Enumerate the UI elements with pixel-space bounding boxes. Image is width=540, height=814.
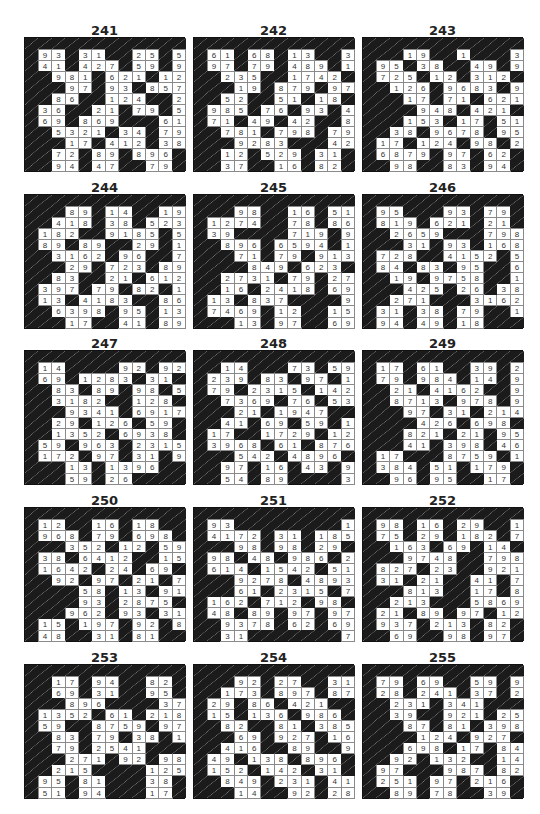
clue-cell (194, 38, 207, 49)
clue-cell (65, 49, 78, 60)
clue-cell (25, 38, 38, 49)
clue-cell (25, 418, 38, 429)
clue-cell (207, 687, 220, 698)
clue-cell (261, 630, 274, 641)
clue-cell (497, 519, 510, 530)
clue-cell (25, 720, 38, 731)
clue-cell (261, 228, 274, 239)
clue-cell (274, 630, 287, 641)
clue-cell (417, 765, 430, 776)
clue-cell (301, 440, 314, 451)
clue-cell (403, 306, 416, 317)
clue-cell (470, 195, 483, 206)
clue-cell (132, 508, 145, 519)
clue-cell (341, 351, 354, 362)
clue-cell (363, 306, 376, 317)
answer-cell: 8 (105, 294, 119, 306)
puzzle-number: 247 (24, 336, 185, 351)
clue-cell (497, 373, 510, 384)
clue-cell (510, 71, 523, 82)
answer-cell: 8 (301, 753, 315, 765)
clue-cell (25, 451, 38, 462)
answer-cell: 1 (78, 618, 92, 630)
clue-cell (65, 519, 78, 530)
clue-cell (390, 195, 403, 206)
answer-cell: 3 (220, 630, 234, 642)
clue-cell (274, 195, 287, 206)
answer-cell: 9 (158, 563, 172, 575)
clue-cell (52, 608, 65, 619)
clue-cell (132, 295, 145, 306)
answer-cell: 1 (470, 709, 484, 721)
clue-cell (207, 206, 220, 217)
clue-cell (65, 776, 78, 787)
clue-cell (457, 105, 470, 116)
clue-cell (328, 743, 341, 754)
clue-cell (430, 82, 443, 93)
clue-cell (159, 284, 172, 295)
clue-cell (25, 406, 38, 417)
clue-cell (38, 687, 51, 698)
kakuro-grid: 9227311738978729864211513698682813856992… (193, 664, 354, 799)
clue-cell (207, 395, 220, 406)
answer-cell: 4 (234, 473, 248, 485)
clue-cell (65, 440, 78, 451)
clue-cell (159, 228, 172, 239)
clue-cell (25, 138, 38, 149)
clue-cell (79, 284, 92, 295)
clue-cell (194, 295, 207, 306)
clue-cell (194, 149, 207, 160)
puzzle-number: 244 (24, 180, 185, 195)
kakuro-puzzle: 2469593798196212126597983193168728415258… (362, 194, 523, 329)
clue-cell (105, 608, 118, 619)
clue-cell (443, 429, 456, 440)
clue-cell (38, 473, 51, 484)
answer-cell: 4 (247, 552, 261, 564)
answer-cell: 7 (207, 115, 221, 127)
answer-cell: 1 (234, 630, 248, 642)
answer-cell: 9 (483, 160, 497, 172)
answer-cell: 1 (327, 731, 341, 743)
answer-cell: 1 (483, 294, 497, 306)
clue-cell (484, 351, 497, 362)
clue-cell (105, 250, 118, 261)
clue-cell (457, 462, 470, 473)
answer-cell: 1 (416, 698, 430, 710)
clue-cell (38, 676, 51, 687)
answer-cell: 7 (105, 160, 119, 172)
clue-cell (119, 787, 132, 798)
clue-cell (417, 217, 430, 228)
clue-cell (497, 362, 510, 373)
answer-cell: 1 (416, 439, 430, 451)
clue-cell (79, 687, 92, 698)
clue-cell (79, 508, 92, 519)
clue-cell (363, 563, 376, 574)
answer-cell: 1 (38, 294, 52, 306)
clue-cell (376, 284, 389, 295)
clue-cell (328, 295, 341, 306)
clue-cell (172, 630, 185, 641)
clue-cell (315, 317, 328, 328)
answer-cell: 7 (247, 618, 261, 630)
clue-cell (341, 541, 354, 552)
clue-cell (38, 149, 51, 160)
answer-cell: 8 (301, 283, 315, 295)
clue-cell (146, 93, 159, 104)
clue-cell (52, 508, 65, 519)
clue-cell (25, 93, 38, 104)
clue-cell (92, 508, 105, 519)
clue-cell (261, 160, 274, 171)
answer-cell: 9 (65, 607, 79, 619)
clue-cell (315, 82, 328, 93)
clue-cell (132, 160, 145, 171)
clue-cell (92, 228, 105, 239)
clue-cell (484, 262, 497, 273)
clue-cell (194, 586, 207, 597)
clue-cell (470, 239, 483, 250)
answer-cell: 8 (456, 764, 470, 776)
clue-cell (25, 754, 38, 765)
clue-cell (470, 541, 483, 552)
answer-cell: 1 (220, 530, 234, 542)
clue-cell (470, 351, 483, 362)
clue-cell (376, 743, 389, 754)
